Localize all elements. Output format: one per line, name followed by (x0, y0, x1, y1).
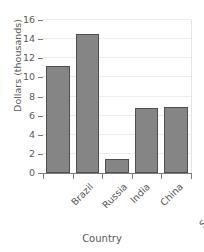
y-tick-label: 14 (0, 34, 35, 44)
x-tick-label-india: India (127, 181, 151, 205)
y-tick-mark (38, 39, 43, 40)
plot-area (43, 20, 191, 173)
y-tick-label: 8 (0, 92, 35, 102)
x-tick-mark (73, 174, 74, 179)
x-tick-mark (132, 174, 133, 179)
x-tick-label-brazil: Brazil (69, 181, 96, 208)
y-tick-mark (38, 58, 43, 59)
bar-russia (76, 34, 100, 173)
y-tick-mark (38, 116, 43, 117)
x-tick-mark (102, 174, 103, 179)
y-tick-label: 0 (0, 168, 35, 178)
x-axis-line (43, 173, 192, 174)
gridline (43, 19, 191, 20)
bar-china (135, 108, 159, 173)
bar-india (105, 159, 129, 173)
gridline (43, 38, 191, 39)
bar-south-africa (164, 107, 188, 173)
y-tick-label: 12 (0, 53, 35, 63)
y-tick-mark (38, 20, 43, 21)
x-tick-mark (161, 174, 162, 179)
y-tick-label: 6 (0, 111, 35, 121)
y-tick-label: 16 (0, 15, 35, 25)
bar-chart: Dollars (thousands) 0246810121416 Brazil… (0, 0, 204, 252)
x-tick-label-russia: Russia (100, 181, 129, 210)
x-tick-label-china: China (158, 181, 185, 208)
y-tick-mark (38, 154, 43, 155)
y-tick-mark (38, 77, 43, 78)
y-tick-label: 4 (0, 130, 35, 140)
y-tick-label: 2 (0, 149, 35, 159)
x-axis-title: Country (0, 233, 204, 244)
y-tick-label: 10 (0, 72, 35, 82)
bar-brazil (46, 66, 70, 173)
x-tick-label-south-africa: South Africa (197, 181, 204, 230)
x-tick-mark (191, 174, 192, 179)
gridline (43, 57, 191, 58)
y-tick-mark (38, 135, 43, 136)
x-tick-mark (43, 174, 44, 179)
y-tick-mark (38, 97, 43, 98)
plot-frame-right (191, 20, 192, 173)
